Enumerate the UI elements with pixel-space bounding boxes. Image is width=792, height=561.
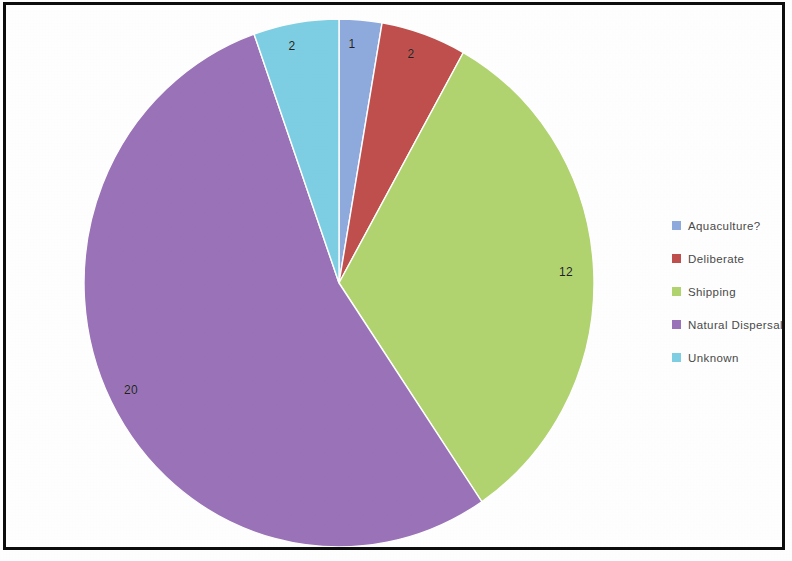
legend-label-unknown: Unknown — [688, 352, 739, 364]
legend-swatch-unknown — [672, 353, 681, 362]
pie-data-label-unknown: 2 — [289, 39, 296, 53]
chart-legend: Aquaculture?DeliberateShippingNatural Di… — [672, 209, 792, 374]
pie-slice-group — [84, 19, 594, 547]
legend-label-deliberate: Deliberate — [688, 253, 744, 265]
legend-swatch-aquaculture — [672, 221, 681, 230]
legend-swatch-deliberate — [672, 254, 681, 263]
legend-label-aquaculture: Aquaculture? — [688, 220, 761, 232]
legend-item-unknown[interactable]: Unknown — [672, 341, 792, 374]
legend-item-deliberate[interactable]: Deliberate — [672, 242, 792, 275]
pie-chart-svg — [84, 19, 594, 547]
pie-data-label-natural-dispersal: 20 — [124, 383, 138, 397]
legend-swatch-shipping — [672, 287, 681, 296]
legend-swatch-natural-dispersal — [672, 320, 681, 329]
legend-item-shipping[interactable]: Shipping — [672, 275, 792, 308]
legend-label-natural-dispersal: Natural Dispersal — [688, 319, 783, 331]
pie-data-label-aquaculture: 1 — [349, 37, 356, 51]
legend-item-aquaculture[interactable]: Aquaculture? — [672, 209, 792, 242]
legend-item-natural-dispersal[interactable]: Natural Dispersal — [672, 308, 792, 341]
pie-data-label-shipping: 12 — [559, 265, 573, 279]
chart-page: 1212202 Aquaculture?DeliberateShippingNa… — [0, 0, 792, 561]
pie-data-label-deliberate: 2 — [408, 47, 415, 61]
legend-label-shipping: Shipping — [688, 286, 736, 298]
